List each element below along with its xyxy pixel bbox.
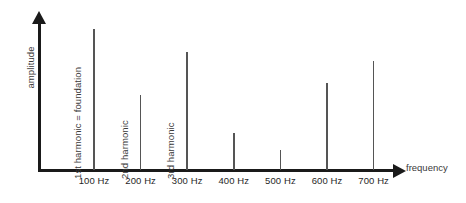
x-axis-line — [38, 169, 396, 172]
y-axis-line — [38, 22, 41, 172]
y-axis-title: amplitude — [25, 33, 36, 103]
spike-200hz — [140, 95, 142, 170]
spike-600hz — [326, 83, 328, 170]
annotation-3rd-harmonic: 3rd harmonic — [165, 122, 176, 179]
tick-label-100hz: 100 Hz — [79, 175, 110, 186]
tick-label-200hz: 200 Hz — [125, 175, 156, 186]
spike-300hz — [186, 52, 188, 170]
tick-label-500hz: 500 Hz — [265, 175, 296, 186]
spike-700hz — [373, 61, 375, 170]
tick-label-600hz: 600 Hz — [312, 175, 343, 186]
annotation-1st-harmonic: 1st harmonic = foundation — [72, 67, 83, 179]
annotation-2nd-harmonic: 2nd harmonic — [119, 120, 130, 179]
x-axis-arrow-icon — [393, 164, 406, 178]
tick-label-400hz: 400 Hz — [218, 175, 249, 186]
harmonic-spectrum-figure: amplitude frequency 1st harmonic = found… — [0, 0, 466, 203]
tick-label-700hz: 700 Hz — [358, 175, 389, 186]
y-axis-arrow-icon — [32, 11, 46, 24]
x-axis-title: frequency — [406, 162, 448, 173]
spike-400hz — [233, 133, 235, 170]
tick-label-300hz: 300 Hz — [172, 175, 203, 186]
spike-100hz — [93, 29, 95, 170]
spike-500hz — [280, 150, 282, 170]
